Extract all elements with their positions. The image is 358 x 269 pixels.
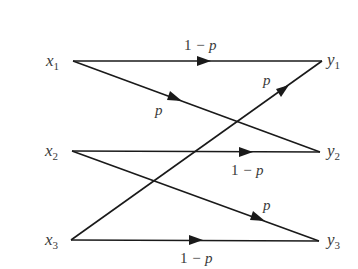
arrow-icon [189,235,203,245]
edge-label-x2-y2: 1 − p [231,162,264,178]
input-label-x2: x2 [44,141,58,162]
arrow-icon [276,85,289,97]
arrow-icon [167,91,182,101]
edge-x2-y3 [72,151,319,241]
output-label-y1: y1 [325,50,340,71]
edge-label-x3-y3: 1 − p [180,250,213,266]
edge-label-x3-y1: p [262,72,271,88]
input-label-x3: x3 [44,230,59,251]
edge-x3-y3 [71,235,319,245]
arrow-icon [197,56,211,66]
edge-label-x1-y1: 1 − p [184,37,217,53]
edge-x1-y2 [73,61,320,152]
output-label-y2: y2 [325,141,340,162]
edge-label-x2-y3: p [262,197,271,213]
arrow-icon [239,147,253,157]
edge-x2-y2 [72,147,320,157]
output-label-y3: y3 [325,230,341,251]
edge-label-x1-y2: p [154,102,163,118]
edge-x1-y1 [73,56,322,66]
input-label-x1: x1 [45,51,59,72]
channel-diagram: x1 x2 x3 y1 y2 y3 1 − p p 1 − p p 1 − p … [0,0,358,269]
